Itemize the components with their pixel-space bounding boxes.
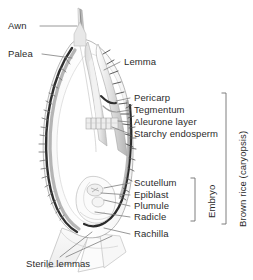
- rice-grain-diagram: Awn Palea Lemma Pericarp Tegmentum Aleur…: [0, 0, 253, 280]
- label-tegmentum: Tegmentum: [134, 104, 185, 115]
- label-scutellum: Scutellum: [134, 177, 177, 188]
- brown-rice-bracket: [222, 93, 226, 224]
- label-sterile-lemmas: Sterile lemmas: [26, 258, 90, 269]
- rice-grain-illustration: [0, 0, 253, 280]
- label-rachilla: Rachilla: [134, 228, 169, 239]
- label-epiblast: Epiblast: [134, 189, 169, 200]
- embryo-shape: [76, 176, 116, 223]
- label-pericarp: Pericarp: [134, 92, 170, 103]
- embryo-bracket: [191, 178, 195, 221]
- awn-shape: [74, 8, 86, 46]
- label-palea: Palea: [8, 48, 33, 59]
- bracket-label-embryo: Embryo: [206, 185, 217, 218]
- label-radicle: Radicle: [134, 211, 166, 222]
- label-lemma: Lemma: [124, 56, 156, 67]
- bracket-label-brown-rice: Brown rice (caryopsis): [237, 131, 248, 227]
- label-awn: Awn: [8, 20, 27, 31]
- label-starchy-endosperm: Starchy endosperm: [134, 128, 218, 139]
- label-plumule: Plumule: [134, 200, 169, 211]
- label-aleurone-layer: Aleurone layer: [134, 116, 197, 127]
